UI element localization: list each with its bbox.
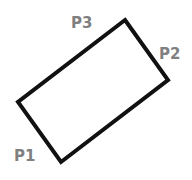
- label-p2: P2: [159, 47, 180, 62]
- label-p1: P1: [14, 149, 35, 164]
- diagram-canvas: P3 P2 P1: [0, 0, 192, 180]
- label-p3: P3: [71, 16, 92, 31]
